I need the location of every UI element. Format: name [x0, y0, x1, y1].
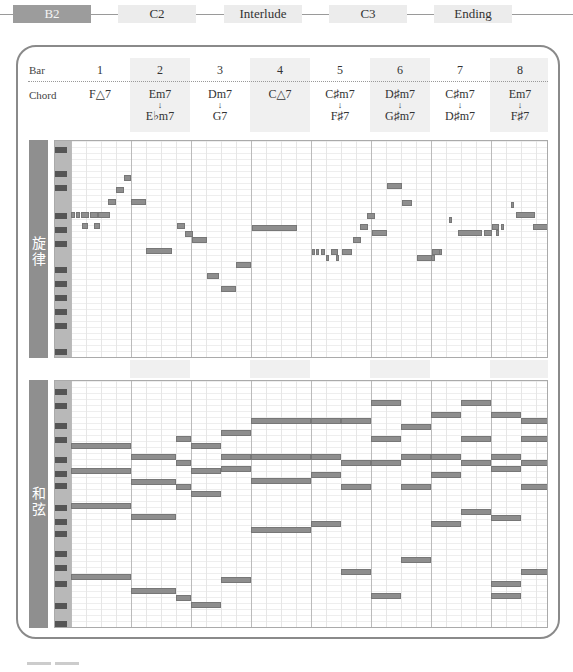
note-block[interactable] [221, 577, 251, 583]
note-block[interactable] [177, 223, 185, 229]
note-block[interactable] [131, 454, 176, 460]
note-block[interactable] [131, 199, 146, 205]
note-block[interactable] [491, 412, 521, 418]
note-block[interactable] [336, 255, 339, 261]
note-block[interactable] [521, 484, 548, 490]
note-block[interactable] [516, 212, 535, 218]
note-block[interactable] [484, 230, 492, 236]
note-block[interactable] [431, 472, 461, 478]
note-block[interactable] [98, 212, 110, 218]
note-block[interactable] [124, 175, 131, 181]
note-block[interactable] [491, 581, 521, 587]
note-block[interactable] [221, 454, 251, 460]
note-block[interactable] [458, 230, 482, 236]
section-tab-c2[interactable]: C2 [118, 5, 196, 23]
note-block[interactable] [221, 466, 251, 472]
note-block[interactable] [311, 472, 341, 478]
note-block[interactable] [461, 509, 491, 515]
note-block[interactable] [176, 460, 191, 466]
note-block[interactable] [94, 223, 100, 229]
note-block[interactable] [439, 249, 442, 255]
note-block[interactable] [341, 484, 371, 490]
note-block[interactable] [252, 225, 297, 231]
note-block[interactable] [372, 230, 387, 236]
note-block[interactable] [71, 503, 131, 509]
note-block[interactable] [341, 569, 371, 575]
note-block[interactable] [251, 418, 311, 424]
note-block[interactable] [511, 202, 514, 208]
note-block[interactable] [521, 569, 548, 575]
note-block[interactable] [76, 212, 80, 218]
note-block[interactable] [521, 418, 548, 424]
note-block[interactable] [501, 224, 504, 230]
melody-piano-roll[interactable] [54, 140, 548, 358]
note-block[interactable] [131, 588, 176, 594]
note-block[interactable] [461, 400, 491, 406]
note-block[interactable] [207, 273, 219, 279]
note-block[interactable] [191, 491, 221, 497]
note-block[interactable] [431, 412, 461, 418]
note-block[interactable] [71, 212, 75, 218]
note-block[interactable] [491, 454, 521, 460]
note-block[interactable] [533, 224, 548, 230]
note-block[interactable] [116, 187, 124, 193]
note-block[interactable] [367, 213, 375, 219]
note-block[interactable] [431, 255, 435, 261]
note-block[interactable] [461, 460, 491, 466]
note-block[interactable] [81, 212, 89, 218]
note-block[interactable] [71, 574, 131, 580]
note-block[interactable] [192, 237, 207, 243]
note-block[interactable] [311, 418, 341, 424]
note-block[interactable] [401, 557, 431, 563]
note-block[interactable] [71, 443, 131, 449]
note-block[interactable] [491, 515, 521, 521]
note-block[interactable] [71, 468, 131, 474]
note-block[interactable] [321, 249, 325, 255]
note-block[interactable] [311, 521, 341, 527]
note-block[interactable] [251, 478, 311, 484]
section-tab-b2[interactable]: B2 [13, 5, 91, 23]
note-block[interactable] [236, 262, 251, 268]
note-block[interactable] [312, 249, 315, 255]
note-block[interactable] [417, 255, 432, 261]
note-block[interactable] [449, 217, 452, 223]
note-block[interactable] [221, 430, 251, 436]
note-block[interactable] [431, 521, 461, 527]
note-block[interactable] [191, 602, 221, 608]
note-block[interactable] [353, 237, 361, 243]
note-block[interactable] [131, 479, 176, 485]
note-block[interactable] [311, 454, 341, 460]
note-block[interactable] [371, 460, 401, 466]
note-block[interactable] [387, 183, 402, 189]
note-block[interactable] [371, 436, 401, 442]
note-block[interactable] [401, 484, 431, 490]
note-block[interactable] [108, 199, 116, 205]
note-block[interactable] [402, 200, 412, 206]
note-block[interactable] [496, 230, 499, 236]
note-block[interactable] [176, 436, 191, 442]
note-block[interactable] [521, 436, 548, 442]
chord-piano-roll[interactable] [54, 380, 548, 628]
note-block[interactable] [176, 595, 191, 601]
note-block[interactable] [176, 484, 191, 490]
note-block[interactable] [191, 468, 221, 474]
note-block[interactable] [326, 255, 329, 261]
note-block[interactable] [191, 443, 221, 449]
note-block[interactable] [341, 418, 371, 424]
note-block[interactable] [521, 460, 548, 466]
note-block[interactable] [342, 249, 352, 255]
note-block[interactable] [371, 593, 401, 599]
note-block[interactable] [341, 460, 371, 466]
note-block[interactable] [90, 212, 98, 218]
note-block[interactable] [431, 454, 461, 460]
note-block[interactable] [401, 424, 431, 430]
note-block[interactable] [461, 436, 491, 442]
note-block[interactable] [316, 249, 319, 255]
note-block[interactable] [82, 223, 88, 229]
note-block[interactable] [360, 224, 368, 230]
note-block[interactable] [371, 400, 401, 406]
note-block[interactable] [401, 454, 431, 460]
note-block[interactable] [146, 248, 172, 254]
note-block[interactable] [251, 454, 311, 460]
section-tab-interlude[interactable]: Interlude [224, 5, 302, 23]
